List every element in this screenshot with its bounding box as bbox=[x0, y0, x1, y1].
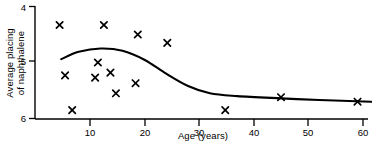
data-point-marker bbox=[222, 107, 228, 113]
axis-lines bbox=[35, 6, 368, 119]
x-axis-label: Age (years) bbox=[34, 130, 372, 141]
y-tick-labels: 4 5 6 bbox=[21, 2, 26, 124]
data-point-marker bbox=[135, 31, 141, 37]
data-point-marker bbox=[95, 59, 101, 65]
data-point-marker bbox=[107, 69, 113, 75]
data-point-marker bbox=[62, 72, 68, 78]
chart-figure: 4 5 6 10 20 30 40 50 60 Average placing … bbox=[0, 0, 372, 147]
y-tick-label-4: 4 bbox=[21, 2, 26, 13]
y-tick-label-6: 6 bbox=[21, 113, 26, 124]
y-axis-ticks bbox=[29, 7, 35, 119]
data-point-marker bbox=[132, 80, 138, 86]
data-point-marker bbox=[56, 22, 62, 28]
data-point-marker bbox=[101, 22, 107, 28]
data-point-marker bbox=[92, 74, 98, 80]
data-point-marker bbox=[69, 107, 75, 113]
y-tick-label-5: 5 bbox=[21, 56, 26, 67]
x-axis-ticks bbox=[90, 119, 363, 126]
data-point-marker bbox=[113, 90, 119, 96]
data-point-marker bbox=[164, 40, 170, 46]
scatter-plot-svg: 4 5 6 10 20 30 40 50 60 bbox=[0, 0, 372, 147]
